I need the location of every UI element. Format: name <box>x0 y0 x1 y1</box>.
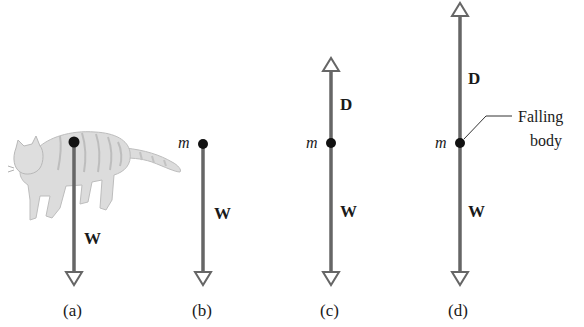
mass-dot <box>198 139 208 149</box>
panel-a: W (a) <box>8 132 181 320</box>
arrowhead-down-icon <box>323 272 339 285</box>
panel-caption-a: (a) <box>63 301 82 320</box>
cat-illustration <box>8 132 181 220</box>
panel-d: m D W Falling body (d) <box>435 3 563 320</box>
force-label-w: W <box>84 229 101 248</box>
leader-line <box>464 116 512 139</box>
mass-label: m <box>178 134 190 151</box>
force-label-w: W <box>214 204 231 223</box>
arrowhead-up-icon <box>452 3 468 16</box>
center-of-mass-dot <box>69 137 80 148</box>
panel-caption-c: (c) <box>320 301 339 320</box>
force-label-w: W <box>340 202 357 221</box>
arrowhead-down-icon <box>195 272 211 285</box>
force-label-d: D <box>468 69 480 88</box>
panel-caption-d: (d) <box>448 301 468 320</box>
annotation-line-1: Falling <box>518 108 563 126</box>
mass-dot <box>455 138 465 148</box>
arrowhead-down-icon <box>452 272 468 285</box>
panel-caption-b: (b) <box>192 301 212 320</box>
mass-label: m <box>306 134 318 151</box>
free-body-diagram-figure: W (a) m W (b) m D W (c) m D W Falling bo… <box>0 0 584 327</box>
force-label-d: D <box>340 95 352 114</box>
mass-dot <box>326 138 336 148</box>
panel-b: m W (b) <box>178 134 231 320</box>
arrowhead-up-icon <box>323 58 339 71</box>
panel-c: m D W (c) <box>306 58 357 320</box>
mass-label: m <box>435 134 447 151</box>
arrowhead-down-icon <box>66 272 82 285</box>
force-label-w: W <box>468 202 485 221</box>
annotation-line-2: body <box>530 132 562 150</box>
